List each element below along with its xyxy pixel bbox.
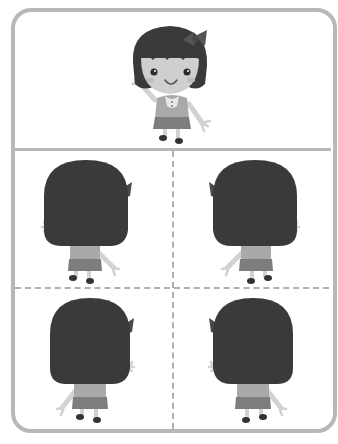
cut-line-horizontal	[15, 287, 329, 289]
cut-line-vertical	[172, 151, 174, 429]
girl-back-figure-top-right	[205, 156, 301, 286]
girl-back-figure-bottom-left	[44, 294, 140, 424]
girl-front-figure	[125, 22, 220, 144]
girl-back-figure-bottom-right	[203, 294, 299, 424]
girl-back-figure-top-left	[40, 156, 136, 286]
